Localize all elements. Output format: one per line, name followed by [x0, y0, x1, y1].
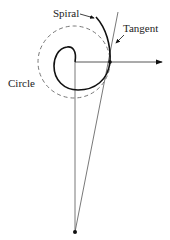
label-spiral: Spiral [53, 7, 79, 19]
tangent-line [75, 12, 118, 232]
tangent-point-dot [108, 60, 112, 64]
label-tangent: Tangent [123, 22, 158, 34]
tangent-pointer-arrow [116, 35, 124, 43]
spiral-diagram: Spiral Tangent Circle [0, 0, 170, 240]
label-circle: Circle [8, 77, 35, 89]
bottom-point-dot [73, 230, 77, 234]
spiral-pointer-arrow [80, 14, 94, 18]
